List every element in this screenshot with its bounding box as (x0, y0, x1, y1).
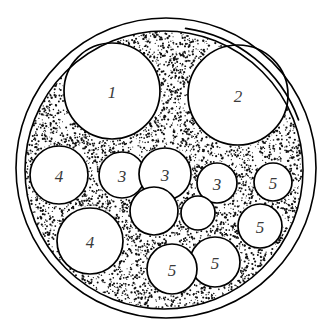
core-outline-core-7[interactable] (130, 187, 178, 235)
core-label-core-8: 3 (212, 175, 222, 194)
core-label-core-1: 1 (108, 83, 117, 102)
core-label-core-13: 5 (168, 261, 177, 280)
core-label-core-11: 5 (256, 218, 265, 237)
core-label-core-3: 4 (55, 167, 64, 186)
core-label-core-2: 2 (234, 87, 243, 106)
core-label-core-4: 4 (86, 233, 95, 252)
core-label-core-5: 3 (117, 167, 127, 186)
core-label-core-10: 5 (269, 174, 278, 193)
core-outline-core-9[interactable] (181, 196, 215, 230)
core-label-core-12: 5 (211, 254, 220, 273)
cable-cross-section-figure: 12443335555 (0, 0, 328, 334)
diagram-canvas: 12443335555 (0, 0, 328, 334)
core-label-core-6: 3 (160, 166, 170, 185)
conductor-core[interactable] (130, 187, 178, 235)
conductor-core[interactable] (181, 196, 215, 230)
